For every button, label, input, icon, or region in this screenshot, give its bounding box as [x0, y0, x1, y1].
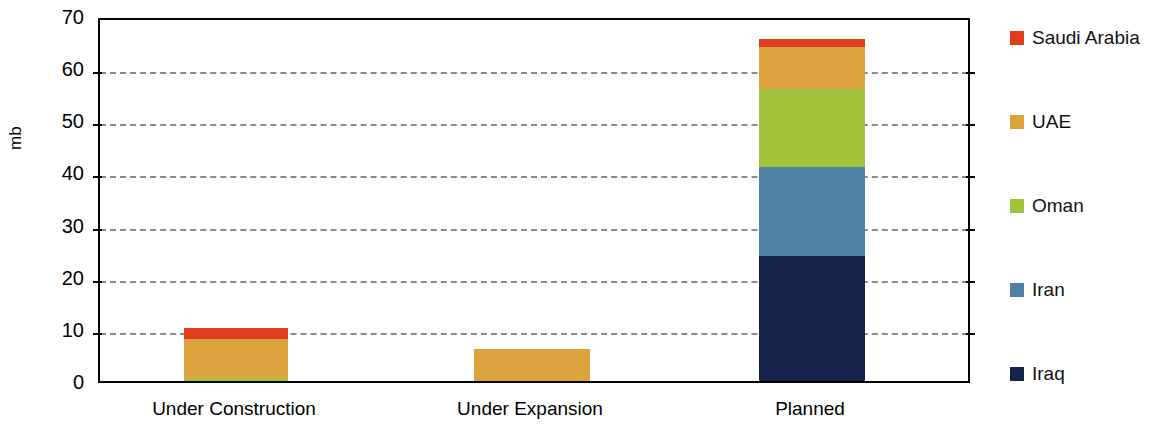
bar-segment-oman[interactable]	[184, 378, 288, 381]
y-axis-tick-10: 10	[22, 320, 84, 340]
legend-item-uae[interactable]: UAE	[1010, 112, 1071, 131]
legend-label: Iran	[1032, 280, 1065, 299]
y-tickmark-left-20	[93, 281, 102, 283]
bar-segment-iraq[interactable]	[759, 256, 865, 381]
x-axis-label-under-construction: Under Construction	[124, 398, 344, 420]
legend-item-iraq[interactable]: Iraq	[1010, 364, 1065, 383]
x-axis-label-under-expansion: Under Expansion	[420, 398, 640, 420]
bar-segment-oman[interactable]	[759, 89, 865, 167]
y-tickmark-right-40	[966, 176, 975, 178]
y-axis-tick-20: 20	[22, 268, 84, 288]
bar-segment-saudi-arabia[interactable]	[184, 328, 288, 339]
x-axis-label-planned: Planned	[700, 398, 920, 420]
y-axis-tick-0: 0	[22, 372, 84, 392]
bar-segment-saudi-arabia[interactable]	[759, 39, 865, 47]
y-tickmark-left-40	[93, 176, 102, 178]
y-tickmark-right-20	[966, 281, 975, 283]
legend-swatch-icon	[1010, 367, 1024, 381]
plot-area	[98, 18, 970, 383]
y-axis-tick-30: 30	[22, 216, 84, 236]
legend-item-saudi-arabia[interactable]: Saudi Arabia	[1010, 28, 1140, 47]
legend-item-oman[interactable]: Oman	[1010, 196, 1084, 215]
y-axis-tick-40: 40	[22, 163, 84, 183]
legend-label: Iraq	[1032, 364, 1065, 383]
y-tickmark-right-60	[966, 72, 975, 74]
legend-swatch-icon	[1010, 283, 1024, 297]
bar-segment-uae[interactable]	[474, 349, 590, 381]
stacked-bar-chart: mb 010203040506070 Under ConstructionUnd…	[0, 0, 1151, 438]
legend-swatch-icon	[1010, 31, 1024, 45]
y-tickmark-right-50	[966, 124, 975, 126]
y-axis-tick-60: 60	[22, 59, 84, 79]
y-tickmark-left-60	[93, 72, 102, 74]
bar-under-construction[interactable]	[184, 328, 288, 381]
y-tickmark-right-30	[966, 229, 975, 231]
legend-swatch-icon	[1010, 115, 1024, 129]
legend-item-iran[interactable]: Iran	[1010, 280, 1065, 299]
bar-segment-uae[interactable]	[184, 339, 288, 378]
bar-segment-uae[interactable]	[759, 47, 865, 89]
bar-under-expansion[interactable]	[474, 349, 590, 381]
y-tickmark-left-10	[93, 333, 102, 335]
y-tickmark-right-10	[966, 333, 975, 335]
legend-label: Oman	[1032, 196, 1084, 215]
bar-planned[interactable]	[759, 39, 865, 381]
legend-swatch-icon	[1010, 199, 1024, 213]
legend-label: UAE	[1032, 112, 1071, 131]
bar-segment-iran[interactable]	[759, 167, 865, 256]
legend-label: Saudi Arabia	[1032, 28, 1140, 47]
y-axis-tick-70: 70	[22, 7, 84, 27]
y-tickmark-left-50	[93, 124, 102, 126]
y-tickmark-left-30	[93, 229, 102, 231]
y-axis-tick-50: 50	[22, 111, 84, 131]
